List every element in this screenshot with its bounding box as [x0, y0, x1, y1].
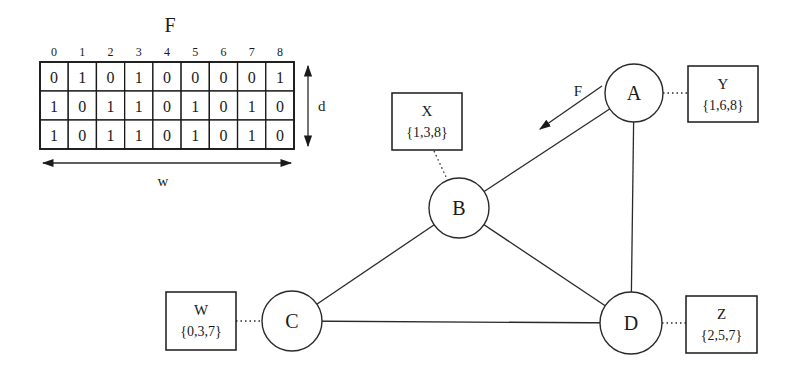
set-box-z: Z{2,5,7}: [686, 296, 757, 353]
cell-value: 1: [50, 98, 58, 115]
node-a: A: [605, 64, 663, 122]
node-label: A: [627, 82, 642, 104]
cell-value: 1: [78, 69, 86, 86]
column-index: 6: [220, 45, 226, 59]
width-label: w: [158, 173, 169, 189]
node-b: B: [429, 178, 489, 238]
set-box-frame: [166, 292, 236, 350]
cell-value: 0: [248, 69, 256, 86]
cell-value: 1: [50, 127, 58, 144]
cell-value: 1: [107, 98, 115, 115]
column-index: 5: [192, 45, 198, 59]
column-index: 2: [108, 45, 114, 59]
cell-value: 0: [107, 69, 115, 86]
cell-value: 0: [163, 98, 171, 115]
set-values: {1,3,8}: [406, 125, 447, 140]
set-box-w: W{0,3,7}: [166, 292, 236, 350]
cell-value: 1: [191, 98, 199, 115]
flow-arrow-label: F: [574, 83, 582, 99]
set-name: Z: [717, 306, 726, 322]
cell-value: 0: [78, 127, 86, 144]
column-index: 0: [51, 45, 57, 59]
cell-value: 1: [276, 69, 284, 86]
table-cells: 010100001101101010101101010: [40, 62, 294, 149]
cell-value: 0: [163, 127, 171, 144]
cell-value: 0: [163, 69, 171, 86]
set-box-frame: [392, 93, 462, 150]
column-index: 7: [249, 45, 255, 59]
edge-a-d: [631, 93, 634, 323]
cell-value: 0: [219, 69, 227, 86]
cell-value: 0: [276, 127, 284, 144]
cell-value: 0: [50, 69, 58, 86]
node-d: D: [600, 292, 662, 354]
set-box-x: X{1,3,8}: [392, 93, 462, 150]
set-values: {1,6,8}: [702, 98, 743, 113]
column-index: 3: [136, 45, 142, 59]
set-link-x: [434, 151, 447, 179]
set-box-frame: [688, 66, 758, 122]
cell-value: 1: [135, 98, 143, 115]
column-index: 1: [79, 45, 85, 59]
cell-value: 0: [276, 98, 284, 115]
cell-value: 0: [219, 127, 227, 144]
column-indices: 012345678: [51, 45, 283, 59]
set-name: Y: [718, 76, 729, 92]
cell-value: 1: [135, 127, 143, 144]
diagram-canvas: F 012345678 010100001101101010101101010 …: [0, 0, 792, 375]
node-label: D: [624, 312, 638, 334]
set-name: X: [422, 103, 433, 119]
cell-value: 1: [135, 69, 143, 86]
node-label: B: [452, 197, 465, 219]
set-values: {2,5,7}: [701, 328, 742, 343]
bit-table: F 012345678 010100001101101010101101010 …: [40, 14, 326, 189]
cell-value: 0: [191, 69, 199, 86]
cell-value: 1: [248, 98, 256, 115]
cell-value: 0: [219, 98, 227, 115]
cell-value: 0: [78, 98, 86, 115]
table-title: F: [164, 14, 175, 36]
node-label: C: [285, 310, 298, 332]
edge-c-d: [292, 321, 631, 323]
cell-value: 1: [107, 127, 115, 144]
cell-value: 1: [248, 127, 256, 144]
depth-label: d: [318, 98, 326, 114]
node-c: C: [262, 291, 322, 351]
set-box-frame: [686, 296, 757, 353]
edge-a-b: [459, 93, 634, 208]
column-index: 4: [164, 45, 170, 59]
set-values: {0,3,7}: [180, 324, 221, 339]
set-name: W: [194, 302, 209, 318]
flow-arrow-line: [540, 86, 602, 129]
flow-arrow: F: [540, 83, 602, 129]
column-index: 8: [277, 45, 283, 59]
set-box-y: Y{1,6,8}: [688, 66, 758, 122]
cell-value: 1: [191, 127, 199, 144]
